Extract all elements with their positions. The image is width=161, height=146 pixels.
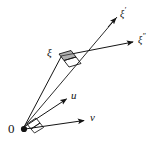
- arrowhead-xi-prime: [108, 18, 116, 27]
- vector-origin-to-xi-prime-long: [23, 17, 117, 128]
- figure-canvas: 0 ξ ξ′ ξ″ u v: [0, 0, 161, 146]
- vector-origin-to-u: [24, 99, 67, 127]
- label-xi-double-prime: ξ″: [138, 33, 146, 45]
- label-xi-double-prime-mark: ″: [142, 32, 145, 41]
- label-xi-prime: ξ′: [120, 7, 126, 19]
- vector-diagram-svg: [0, 0, 161, 146]
- label-xi: ξ: [47, 47, 52, 58]
- label-u: u: [71, 90, 77, 101]
- label-v: v: [90, 112, 95, 123]
- label-xi-prime-mark: ′: [124, 6, 126, 15]
- vector-origin-to-xi: [24, 56, 62, 128]
- label-origin: 0: [8, 122, 15, 135]
- origin-point-dot: [21, 126, 27, 132]
- vector-origin-to-v: [25, 121, 84, 130]
